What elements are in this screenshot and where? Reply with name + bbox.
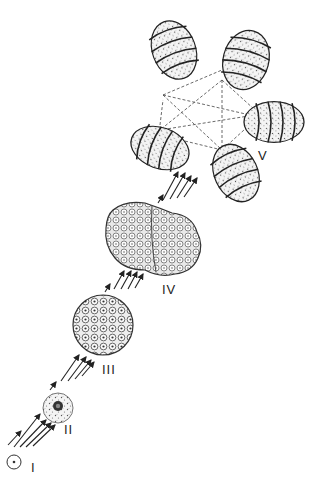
arrows-ii-to-iii bbox=[50, 355, 94, 390]
stage-iv-label: IV bbox=[162, 282, 176, 297]
stage-ii-cell bbox=[43, 393, 73, 423]
stage-iii-sphere bbox=[73, 295, 133, 355]
stage-iii-label: III bbox=[102, 362, 116, 377]
stage-i-cell bbox=[7, 455, 21, 469]
stage-v-label: V bbox=[258, 148, 268, 163]
stage-i-label: I bbox=[31, 460, 36, 475]
stage-v-bodies bbox=[125, 14, 304, 209]
arrows-iii-to-iv bbox=[105, 271, 143, 292]
arrows-iv-to-v bbox=[158, 172, 197, 203]
diagram-canvas bbox=[0, 0, 327, 483]
stage-ii-label: II bbox=[64, 422, 73, 437]
stage-iv-mass bbox=[106, 202, 201, 275]
